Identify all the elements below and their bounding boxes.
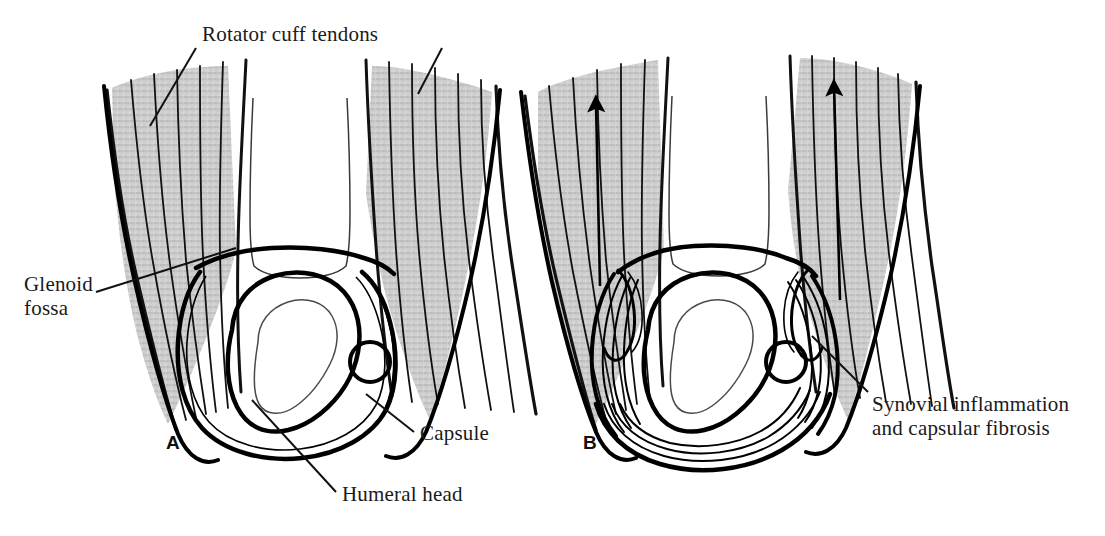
panel-b-humeral-head-inner [670, 300, 753, 414]
label-synovial-line2: and capsular fibrosis [872, 416, 1050, 440]
label-synovial-inflammation: Synovial inflammation and capsular fibro… [872, 392, 1102, 440]
label-capsule: Capsule [420, 421, 489, 445]
panel-b-artwork [0, 0, 1105, 536]
label-glenoid-fossa-line1: Glenoid [24, 272, 93, 296]
panel-letter-a: A [166, 432, 180, 454]
label-glenoid-fossa-line2: fossa [24, 296, 68, 320]
label-rotator-cuff-tendons: Rotator cuff tendons [202, 22, 378, 46]
panel-letter-b: B [583, 432, 597, 454]
label-glenoid-fossa: Glenoid fossa [24, 272, 134, 320]
shoulder-joint-figure: Rotator cuff tendons Glenoid fossa Capsu… [0, 0, 1105, 536]
label-synovial-line1: Synovial inflammation [872, 392, 1069, 416]
label-humeral-head: Humeral head [342, 482, 463, 506]
